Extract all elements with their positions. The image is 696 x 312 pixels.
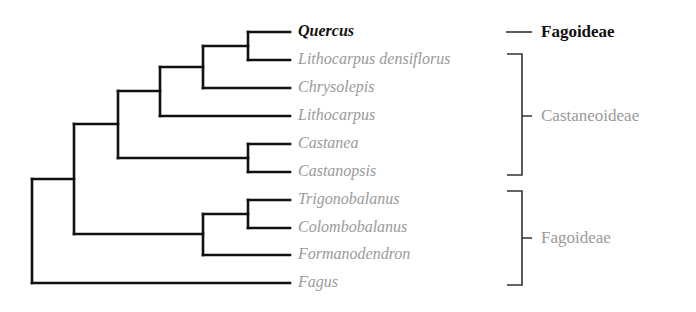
phylogenetic-tree bbox=[0, 0, 696, 312]
taxon-label-chrysolepis: Chrysolepis bbox=[298, 78, 374, 96]
group-label-fagoideae-highlight: Fagoideae bbox=[541, 22, 615, 42]
taxon-label-trigonobalanus: Trigonobalanus bbox=[298, 190, 399, 208]
taxon-label-quercus: Quercus bbox=[298, 22, 354, 40]
taxon-label-castanea: Castanea bbox=[298, 134, 358, 152]
group-brackets bbox=[506, 32, 532, 285]
taxon-label-formanodendron: Formanodendron bbox=[298, 245, 410, 263]
fagoideae-bracket bbox=[507, 191, 532, 285]
taxon-label-colombobalanus: Colombobalanus bbox=[298, 218, 407, 236]
taxon-label-castanopsis: Castanopsis bbox=[298, 162, 376, 180]
tree-branches bbox=[32, 32, 290, 283]
group-label-fagoideae: Fagoideae bbox=[541, 228, 611, 248]
taxon-label-lithocarpus-densiflorus: Lithocarpus densiflorus bbox=[298, 50, 450, 68]
taxon-label-lithocarpus: Lithocarpus bbox=[298, 106, 375, 124]
taxon-label-fagus: Fagus bbox=[298, 273, 338, 291]
group-label-castaneoideae: Castaneoideae bbox=[541, 106, 639, 126]
castaneoideae-bracket bbox=[507, 54, 532, 175]
